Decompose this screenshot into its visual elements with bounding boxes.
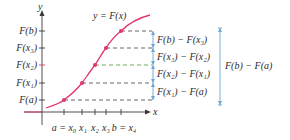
y-tick-label: F(a) [18,94,37,106]
y-tick-label: F(x₁) [15,77,37,89]
x-tick-label: x₃ [101,122,110,133]
x-tick-label: a = x₀ [52,122,77,133]
curve-points [62,29,123,102]
difference-label: F(b) − F(x₃) [156,34,208,46]
x-tick-labels: a = x₀ x₁ x₂ x₃ b = x₄ [52,122,137,133]
y-tick-label: F(x₃) [15,42,37,54]
partition-sum-diagram: y x F(b) F(x₃) F(x₂) F(x₁) F(a) a = x₀ x… [0,0,290,140]
inner-bracket [151,31,155,100]
y-axis-label: y [37,1,43,12]
x-tick-label: x₂ [90,122,99,133]
x-axis-arrow-icon [145,110,151,115]
curve-label: y = F(x) [92,10,127,22]
y-tick-label: F(b) [18,25,37,37]
difference-label: F(x₁) − F(a) [156,86,208,98]
difference-label: F(x₃) − F(x₂) [156,51,211,63]
x-tick-label: b = x₄ [112,122,137,133]
x-tick-label: x₁ [78,122,87,133]
y-tick-labels: F(b) F(x₃) F(x₂) F(x₁) F(a) [15,25,37,106]
curve-F [46,15,150,108]
dashed-levels [64,31,152,100]
total-difference-label: F(b) − F(a) [224,60,273,72]
outer-bracket [218,28,222,105]
x-axis-label: x [152,106,158,117]
difference-label: F(x₂) − F(x₁) [156,68,211,80]
difference-labels: F(b) − F(x₃) F(x₃) − F(x₂) F(x₂) − F(x₁)… [156,34,211,98]
y-tick-label: F(x₂) [15,59,37,71]
